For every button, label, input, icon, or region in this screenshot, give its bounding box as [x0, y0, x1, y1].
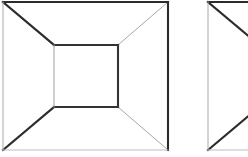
frustum-figures-canvas	[0, 0, 248, 157]
page-background	[0, 0, 248, 157]
